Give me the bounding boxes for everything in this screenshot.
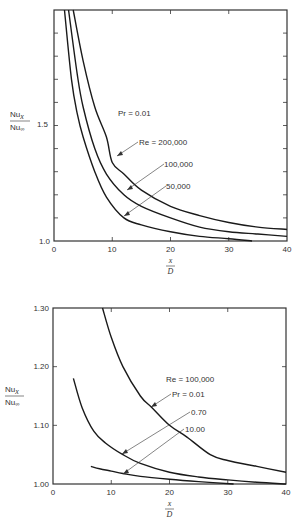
- top-pr-annotation: Pr = 0.01: [118, 109, 151, 118]
- curve-50-000: [64, 10, 252, 241]
- top-chart: 0 10 20 30 40 1.0 1.5 Nux Nu∞ x D Pr = 0…: [10, 10, 292, 276]
- top-ylabel-num-sub: x: [19, 112, 24, 121]
- bottom-ylabel-num: Nu: [5, 385, 15, 394]
- bottom-ylabel-num-sub: x: [14, 387, 19, 396]
- bottom-y-tick-1.00: 1.00: [33, 480, 49, 489]
- bottom-y-tick-1.30: 1.30: [33, 304, 49, 313]
- top-y-axis-label: Nux Nu∞: [10, 110, 30, 132]
- bottom-x-tick-0: 0: [51, 488, 56, 497]
- top-ylabel-num: Nu: [10, 110, 20, 119]
- top-ylabel-den-sub: ∞: [20, 126, 24, 132]
- bottom-leader-lines: [122, 394, 190, 474]
- bottom-label-pr-0.01: Pr = 0.01: [172, 390, 205, 399]
- bottom-x-tick-30: 30: [224, 488, 233, 497]
- bottom-re-annotation: Re = 100,000: [166, 375, 215, 384]
- bottom-x-tick-20: 20: [165, 488, 174, 497]
- top-label-re-200000: Re = 200,000: [139, 138, 188, 147]
- top-ylabel-den: Nu: [10, 123, 20, 132]
- top-x-tick-30: 30: [225, 245, 234, 254]
- top-xlabel-den: D: [167, 267, 174, 276]
- bottom-xlabel-den: D: [166, 510, 173, 519]
- bottom-label-10.00: 10.00: [185, 425, 206, 434]
- bottom-x-axis-label: x D: [165, 499, 174, 519]
- top-leader-lines: [117, 142, 166, 216]
- figure: 0 10 20 30 40 1.0 1.5 Nux Nu∞ x D Pr = 0…: [0, 0, 297, 527]
- top-label-100000: 100,000: [164, 160, 193, 169]
- bottom-chart: 0 10 20 30 40 1.00 1.10 1.20 1.30 Nux Nu…: [5, 304, 291, 519]
- bottom-x-tick-10: 10: [107, 488, 116, 497]
- bottom-ylabel-den-sub: ∞: [15, 401, 19, 407]
- top-x-tick-20: 20: [166, 245, 175, 254]
- svg-text:Nu∞: Nu∞: [5, 398, 20, 407]
- bottom-y-axis-label: Nux Nu∞: [5, 385, 24, 407]
- top-y-tick-1.5: 1.5: [37, 120, 49, 129]
- bottom-plot-frame: [53, 308, 286, 484]
- top-xlabel-num: x: [168, 256, 173, 265]
- top-curves: [64, 10, 287, 241]
- top-x-axis-label: x D: [166, 256, 175, 276]
- top-x-tick-10: 10: [108, 245, 117, 254]
- svg-text:Nux: Nux: [10, 110, 24, 121]
- svg-text:Nu∞: Nu∞: [10, 123, 25, 132]
- bottom-y-tick-1.10: 1.10: [33, 421, 49, 430]
- bottom-label-0.70: 0.70: [191, 408, 207, 417]
- bottom-x-tick-40: 40: [282, 488, 291, 497]
- curve-10.00: [91, 466, 234, 484]
- bottom-y-tick-1.20: 1.20: [33, 362, 49, 371]
- bottom-xlabel-num: x: [167, 499, 172, 508]
- top-x-tick-0: 0: [52, 245, 57, 254]
- bottom-ticks: [53, 308, 286, 484]
- top-label-50000: 50,000: [166, 182, 191, 191]
- top-x-tick-40: 40: [283, 245, 292, 254]
- bottom-ylabel-den: Nu: [5, 398, 15, 407]
- top-y-tick-1.0: 1.0: [39, 237, 51, 246]
- svg-text:Nux: Nux: [5, 385, 19, 396]
